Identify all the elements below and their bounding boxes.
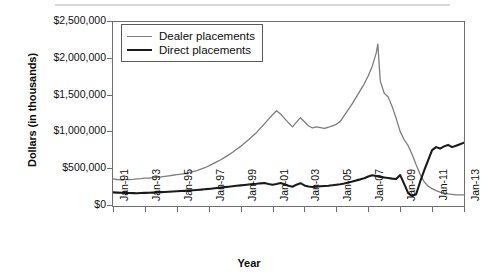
legend-swatch-line [127,36,152,37]
x-tick-label: Jan-01 [278,169,290,215]
legend-item: Direct placements [127,43,255,57]
x-tick-mark [241,207,242,212]
x-tick-label: Jan-03 [309,169,321,215]
legend-label: Direct placements [159,43,251,57]
legend-label: Dealer placements [159,29,255,43]
y-tick-mark [107,131,112,132]
x-tick-mark [209,207,210,212]
x-tick-label: Jan-05 [341,169,353,215]
x-tick-label: Jan-07 [373,169,385,215]
x-tick-label: Jan-11 [437,169,449,215]
y-tick-mark [107,205,112,206]
y-tick-label: $1,000,000 [28,124,106,136]
y-tick-label: $0 [28,198,106,210]
x-tick-mark [145,207,146,212]
y-tick-label: $1,500,000 [28,88,106,100]
x-tick-mark [113,207,114,212]
x-tick-mark [273,207,274,212]
chart-legend: Dealer placementsDirect placements [121,24,263,62]
legend-item: Dealer placements [127,29,255,43]
top-divider-rule [55,4,450,6]
x-tick-label: Jan-95 [182,169,194,215]
x-tick-mark [432,207,433,212]
x-tick-label: Jan-91 [118,169,130,215]
y-tick-label: $2,500,000 [28,14,106,26]
x-axis-title: Year [0,257,498,269]
x-tick-label: Jan-09 [405,169,417,215]
y-tick-label: $500,000 [28,161,106,173]
x-tick-mark [464,207,465,212]
y-tick-mark [107,168,112,169]
y-axis-tick-labels: $0$500,000$1,000,000$1,500,000$2,000,000… [26,0,106,277]
x-tick-label: Jan-99 [246,169,258,215]
y-tick-label: $2,000,000 [28,51,106,63]
x-tick-mark [368,207,369,212]
x-tick-label: Jan-13 [469,169,481,215]
x-tick-mark [304,207,305,212]
y-tick-mark [107,58,112,59]
y-tick-mark [107,95,112,96]
y-tick-mark [107,21,112,22]
chart-figure: Dollars (in thousands) $0$500,000$1,000,… [0,0,498,277]
legend-swatch-line [127,49,152,51]
x-tick-label: Jan-97 [214,169,226,215]
x-tick-label: Jan-93 [150,169,162,215]
x-tick-mark [400,207,401,212]
x-tick-mark [177,207,178,212]
x-tick-mark [336,207,337,212]
